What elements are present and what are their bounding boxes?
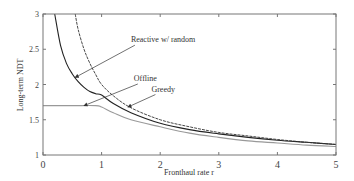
annotation-offline: Offline	[134, 74, 157, 83]
annotation-arrow	[128, 95, 155, 108]
series-greedy	[75, 14, 336, 144]
x-tick-label: 5	[334, 159, 339, 170]
x-axis-label: Fronthaul rate r	[164, 168, 214, 177]
annotation-reactive-w-random: Reactive w/ random	[131, 35, 196, 44]
annotation-greedy: Greedy	[151, 85, 175, 94]
plot-series	[43, 14, 336, 147]
y-tick-label: 1.5	[29, 116, 39, 125]
ndt-chart: 01234511.522.53 Reactive w/ randomOfflin…	[0, 0, 354, 181]
x-tick-label: 2	[158, 159, 163, 170]
y-tick-label: 2.5	[29, 45, 39, 54]
x-tick-label: 0	[41, 159, 46, 170]
y-tick-label: 3	[35, 10, 39, 19]
x-tick-label: 1	[99, 159, 104, 170]
y-tick-label: 2	[35, 81, 39, 90]
x-tick-label: 4	[275, 159, 280, 170]
y-axis-label: Long-term NDT	[16, 59, 25, 112]
y-tick-label: 1	[35, 151, 39, 160]
series-offline	[43, 106, 336, 147]
annotations: Reactive w/ randomOfflineGreedy	[75, 35, 196, 107]
axis-ticks: 01234511.522.53	[29, 10, 339, 170]
series-reactive-w-random	[55, 14, 336, 144]
x-tick-label: 3	[216, 159, 221, 170]
